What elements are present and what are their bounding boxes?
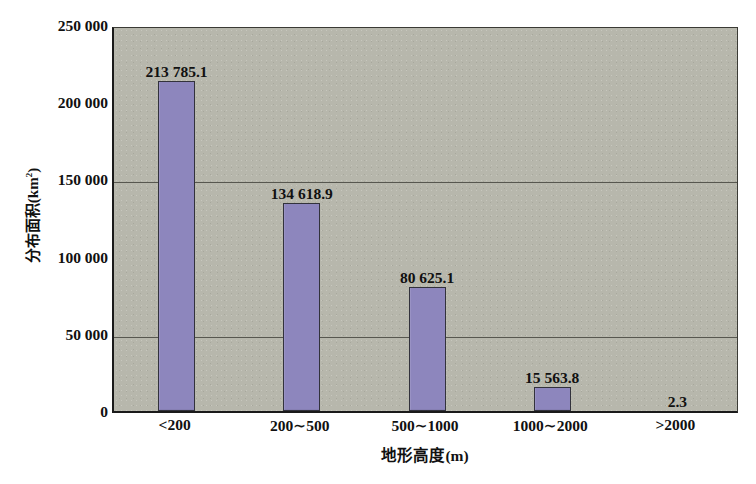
bar: [534, 387, 571, 411]
y-tick-label: 150 000: [16, 171, 108, 189]
bar: [158, 81, 195, 411]
bar-value-label: 80 625.1: [400, 269, 454, 287]
figure-caption: [0, 470, 756, 484]
gridline: [114, 182, 737, 183]
bar: [283, 203, 320, 411]
y-tick-label: 0: [16, 403, 108, 421]
x-tick-label: <200: [159, 416, 191, 434]
x-axis-title: 地形高度(m): [112, 443, 738, 465]
x-tick-label: 1000∼2000: [513, 416, 588, 435]
x-tick-label: 500∼1000: [391, 416, 458, 435]
bar-value-label: 15 563.8: [525, 369, 579, 387]
bar-value-label: 213 785.1: [146, 63, 208, 81]
y-tick-label: 200 000: [16, 94, 108, 112]
bar: [409, 287, 446, 411]
bar-chart-figure: 分布面积(km2) 050 000100 000150 000200 00025…: [0, 0, 756, 484]
bar-value-label: 2.3: [668, 393, 687, 411]
y-tick-label: 100 000: [16, 249, 108, 267]
plot-area: 213 785.1134 618.980 625.115 563.82.3: [112, 27, 738, 413]
bar-value-label: 134 618.9: [271, 185, 333, 203]
x-tick-label: >2000: [655, 416, 695, 434]
y-tick-label: 250 000: [16, 17, 108, 35]
y-tick-label: 50 000: [16, 326, 108, 344]
x-axis-tick-labels: <200200∼500500∼10001000∼2000>2000: [112, 416, 738, 442]
x-tick-label: 200∼500: [270, 416, 330, 435]
y-axis-tick-labels: 050 000100 000150 000200 000250 000: [12, 0, 108, 484]
